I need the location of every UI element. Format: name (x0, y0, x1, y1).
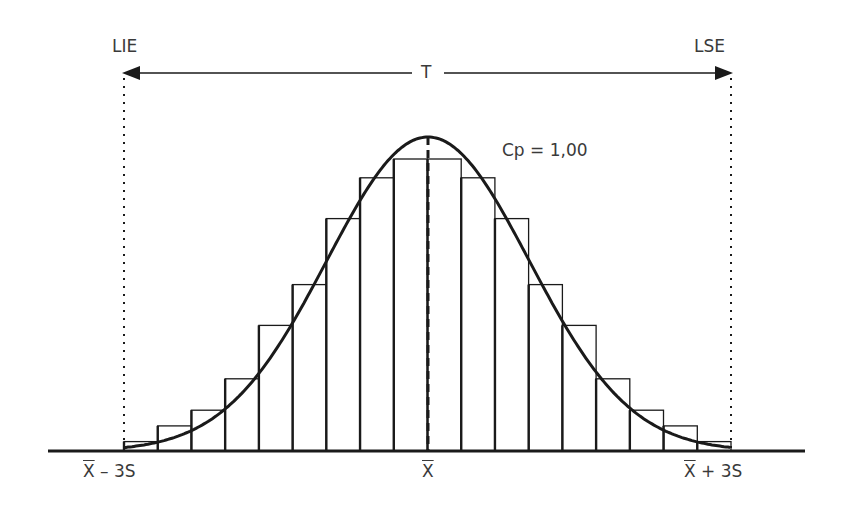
histogram-bar (394, 159, 428, 451)
mean-label: X (422, 463, 434, 480)
histogram-bar (428, 159, 462, 451)
tolerance-label: T (421, 64, 431, 81)
histogram-bar (596, 379, 630, 451)
minus-3s-label: X – 3S (83, 463, 136, 480)
histogram-bar (495, 219, 529, 451)
cp-label: Cp = 1,00 (502, 142, 588, 159)
plus-3s-label: X + 3S (684, 463, 742, 480)
histogram-bar (259, 325, 293, 451)
arrowhead-right-icon (715, 66, 733, 80)
mean-symbol: X (422, 461, 434, 481)
mean-symbol: X (684, 461, 696, 481)
histogram-bar (191, 410, 225, 451)
histogram-bar (360, 178, 394, 451)
histogram-bar (630, 410, 664, 451)
histogram-bar (562, 325, 596, 451)
mean-symbol: X (83, 461, 95, 481)
lse-label: LSE (694, 38, 725, 55)
arrowhead-left-icon (122, 66, 140, 80)
histogram-bar (293, 285, 327, 451)
lie-label: LIE (112, 38, 137, 55)
histogram-bar (461, 178, 495, 451)
histogram-bar (225, 379, 259, 451)
